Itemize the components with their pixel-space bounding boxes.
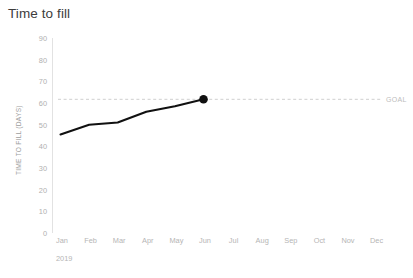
x-tick-label-jul: Jul — [229, 236, 239, 245]
x-tick-label-aug: Aug — [256, 236, 269, 245]
y-tick-label: 80 — [39, 56, 47, 65]
x-tick-label-feb: Feb — [84, 236, 97, 245]
y-tick-label: 40 — [39, 142, 47, 151]
goal-label: GOAL — [386, 96, 407, 103]
chart-container: Time to fill 90 80 70 60 50 40 30 20 10 … — [0, 0, 413, 278]
x-tick-label-jun: Jun — [199, 236, 211, 245]
x-tick-label-mar: Mar — [113, 236, 126, 245]
y-tick-label: 50 — [39, 121, 47, 130]
x-tick-label-may: May — [169, 236, 183, 245]
y-tick-label: 30 — [39, 164, 47, 173]
y-tick-label: 10 — [39, 207, 47, 216]
x-axis-ticks: Jan Feb Mar Apr May Jun Jul Aug Sep Oct … — [56, 236, 383, 245]
line-chart-plot: 90 80 70 60 50 40 30 20 10 0 TIME TO FIL… — [0, 0, 413, 278]
data-line-time-to-fill — [61, 99, 204, 134]
y-tick-label: 90 — [39, 34, 47, 43]
x-tick-label-nov: Nov — [341, 236, 354, 245]
x-axis-year-label: 2019 — [56, 254, 72, 263]
data-point-marker-jun — [199, 95, 208, 104]
y-tick-label: 20 — [39, 186, 47, 195]
y-axis-title: TIME TO FILL (DAYS) — [15, 105, 23, 175]
y-tick-label: 0 — [43, 229, 47, 238]
x-tick-label-apr: Apr — [142, 236, 154, 245]
x-tick-label-dec: Dec — [370, 236, 383, 245]
y-tick-label: 60 — [39, 99, 47, 108]
x-tick-label-sep: Sep — [284, 236, 297, 245]
x-tick-label-oct: Oct — [314, 236, 326, 245]
x-tick-label-jan: Jan — [56, 236, 68, 245]
y-tick-label: 70 — [39, 77, 47, 86]
y-axis-ticks: 90 80 70 60 50 40 30 20 10 0 — [39, 34, 47, 238]
